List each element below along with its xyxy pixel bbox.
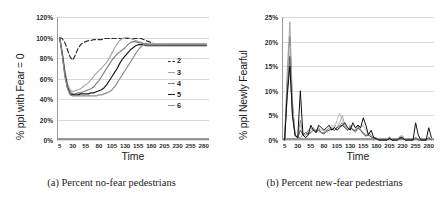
series-line-5 — [285, 56, 432, 140]
panel-b-caption: (b) Percent new-fear pedestrians — [223, 177, 446, 188]
x-tick-label: 80 — [320, 142, 327, 149]
x-tick-label: 255 — [410, 142, 420, 149]
x-tick-label: 205 — [384, 142, 394, 149]
y-tick-label: 20% — [265, 38, 278, 45]
series-line-2 — [60, 38, 207, 61]
series-layer — [57, 17, 209, 140]
y-tick-label: 60% — [40, 75, 53, 82]
y-tick-label: 20% — [40, 116, 53, 123]
legend-label: 6 — [177, 102, 181, 109]
y-tick-label: 120% — [36, 14, 53, 21]
legend-swatch-icon — [168, 83, 175, 84]
y-tick-label: 100% — [36, 34, 53, 41]
legend-swatch-icon — [168, 94, 175, 95]
x-tick-label: 255 — [185, 142, 195, 149]
x-tick-label: 280 — [424, 142, 434, 149]
y-tick-label: 0% — [268, 137, 278, 144]
series-line-2 — [285, 22, 432, 140]
legend-label: 4 — [177, 80, 181, 87]
legend-swatch-icon — [168, 72, 175, 73]
panel-b-plot-area: 0%5%10%15%20%25% 53055801051301551802052… — [282, 17, 434, 140]
x-tick-label: 205 — [159, 142, 169, 149]
y-tick-label: 80% — [40, 55, 53, 62]
panel-b-x-axis-title: Time — [282, 150, 434, 162]
legend-item-4: 4 — [168, 79, 181, 87]
panel-a-plot-area: 0%20%40%60%80%100%120% 53055801051301551… — [57, 17, 209, 140]
x-tick-label: 130 — [345, 142, 355, 149]
legend-swatch-icon — [168, 105, 175, 106]
y-tick-label: 15% — [265, 63, 278, 70]
panel-b-y-axis-title: % ppl Newly Fearful — [237, 50, 249, 140]
legend-item-2: 2 — [168, 57, 181, 65]
x-tick-label: 105 — [107, 142, 117, 149]
x-tick-label: 180 — [146, 142, 156, 149]
panel-a-legend: 23456 — [168, 57, 181, 110]
panel-a-no-fear: % ppl with Fear = 0 0%20%40%60%80%100%12… — [0, 0, 223, 202]
legend-label: 2 — [177, 57, 181, 64]
legend-item-3: 3 — [168, 68, 181, 76]
y-tick-label: 25% — [265, 14, 278, 21]
legend-item-6: 6 — [168, 102, 181, 110]
series-line-5 — [60, 38, 207, 95]
x-tick-label: 230 — [397, 142, 407, 149]
x-tick-label: 130 — [120, 142, 130, 149]
x-tick-label: 30 — [294, 142, 301, 149]
x-tick-label: 5 — [58, 142, 61, 149]
panel-a-caption: (a) Percent no-fear pedestrians — [0, 177, 223, 188]
x-tick-label: 55 — [82, 142, 89, 149]
x-tick-label: 230 — [172, 142, 182, 149]
series-line-6 — [285, 66, 432, 140]
x-tick-label: 80 — [95, 142, 102, 149]
x-tick-label: 105 — [332, 142, 342, 149]
panel-b-new-fear: % ppl Newly Fearful 0%5%10%15%20%25% 530… — [223, 0, 446, 202]
legend-label: 5 — [177, 91, 181, 98]
x-tick-label: 5 — [283, 142, 286, 149]
x-tick-label: 180 — [371, 142, 381, 149]
legend-item-5: 5 — [168, 91, 181, 99]
x-tick-label: 155 — [133, 142, 143, 149]
y-tick-label: 40% — [40, 96, 53, 103]
series-layer — [282, 17, 434, 140]
series-line-3 — [285, 37, 432, 140]
x-tick-label: 280 — [199, 142, 209, 149]
y-tick-label: 10% — [265, 87, 278, 94]
figure-two-panel-line-charts: % ppl with Fear = 0 0%20%40%60%80%100%12… — [0, 0, 446, 202]
legend-label: 3 — [177, 69, 181, 76]
panel-a-x-axis-title: Time — [57, 150, 209, 162]
x-tick-label: 30 — [69, 142, 76, 149]
x-tick-label: 155 — [358, 142, 368, 149]
y-tick-label: 5% — [268, 112, 278, 119]
panel-a-y-axis-title: % ppl with Fear = 0 — [14, 54, 26, 140]
legend-swatch-icon — [168, 61, 175, 62]
y-tick-label: 0% — [43, 137, 53, 144]
x-tick-label: 55 — [307, 142, 314, 149]
